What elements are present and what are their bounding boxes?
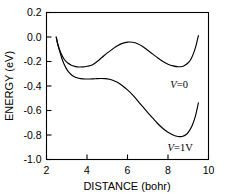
curve-series-1 [56,36,198,68]
y-axis-ticks [47,13,52,160]
energy-distance-chart: 0.20.0-0.2-0.4-0.6-0.8-1.0 246810 V=0V=1… [0,0,226,196]
y-tick-label: 0.2 [27,6,42,18]
y-tick-label: -0.2 [23,55,41,67]
x-axis-title: DISTANCE (bohr) [83,180,170,192]
series-label-value: =0 [177,79,188,90]
x-tick-label: 6 [125,164,131,176]
y-tick-label: -0.6 [23,104,41,116]
series-label-1: V=0 [170,79,188,90]
y-axis-tick-labels: 0.20.0-0.2-0.4-0.6-0.8-1.0 [23,6,41,165]
x-tick-label: 2 [44,164,50,176]
y-tick-label: 0.0 [27,31,42,43]
series-annotations-group: V=0V=1V [168,79,194,152]
y-axis-title: ENERGY (eV) [3,51,15,121]
x-tick-label: 4 [84,164,90,176]
x-tick-label: 8 [165,164,171,176]
series-label-2: V=1V [168,142,194,153]
y-tick-label: -0.4 [23,80,41,92]
y-tick-label: -1.0 [23,153,41,165]
y-tick-label: -0.8 [23,129,41,141]
x-tick-label: 10 [203,164,215,176]
series-label-value: =1V [174,142,193,153]
figure-container: 0.20.0-0.2-0.4-0.6-0.8-1.0 246810 V=0V=1… [0,0,226,196]
x-axis-tick-labels: 246810 [44,164,215,176]
x-axis-ticks [47,155,209,160]
